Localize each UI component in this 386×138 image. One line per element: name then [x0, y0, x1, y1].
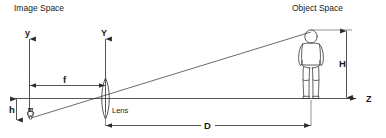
z-axis-label: Z — [366, 94, 372, 104]
y-axis-label: y — [25, 28, 30, 38]
object-height-label: H — [339, 58, 346, 69]
object-figure — [299, 30, 324, 99]
lens-label: Lens — [112, 106, 129, 115]
object-space-label: Object Space — [292, 3, 343, 13]
thin-lens-imaging-diagram: Image Space Object Space Z y Y Lens — [0, 0, 386, 138]
chief-ray — [31, 32, 311, 118]
object-distance-label: D — [204, 120, 211, 131]
Y-axis-label: Y — [101, 28, 107, 38]
focal-length-dimension — [30, 70, 106, 88]
image-space-label: Image Space — [14, 3, 64, 13]
diagram-canvas: Image Space Object Space Z y Y Lens — [0, 0, 386, 138]
image-height-label: h — [9, 104, 15, 115]
focal-length-label: f — [63, 74, 67, 85]
